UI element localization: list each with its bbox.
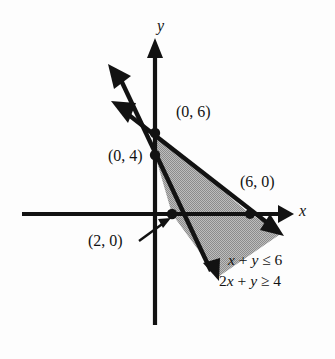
inequality-graph-figure: (0, 6) (0, 4) (6, 0) (2, 0) x y x + y ≤ …: [0, 0, 335, 359]
ineq1-rhs: 6: [275, 251, 283, 268]
dot-2-0: [167, 209, 177, 219]
ineq2-rhs: 4: [273, 272, 281, 289]
ineq1-plus: +: [235, 251, 252, 268]
dot-0-6: [150, 128, 160, 138]
inequality-label-2x-plus-y: 2x + y ≥ 4: [219, 273, 281, 289]
y-axis: [147, 38, 163, 325]
graph-canvas: [0, 0, 335, 359]
point-label-6-0: (6, 0): [240, 174, 275, 190]
x-axis-label: x: [299, 203, 306, 219]
point-label-2-0: (2, 0): [88, 233, 123, 249]
point-label-0-6: (0, 6): [176, 104, 211, 120]
dot-0-4: [150, 150, 160, 160]
ineq1-relation: ≤: [258, 251, 274, 268]
point-label-0-4: (0, 4): [108, 148, 143, 164]
y-axis-label: y: [157, 18, 164, 34]
ineq2-var-x: x: [227, 272, 234, 289]
inequality-label-x-plus-y: x + y ≤ 6: [228, 252, 282, 268]
ineq2-coefficient: 2: [219, 272, 227, 289]
ineq2-var-y: y: [250, 272, 257, 289]
ineq1-var-x: x: [228, 251, 235, 268]
ineq2-plus: +: [234, 272, 251, 289]
ineq2-relation: ≥: [257, 272, 273, 289]
dot-6-0: [245, 209, 255, 219]
